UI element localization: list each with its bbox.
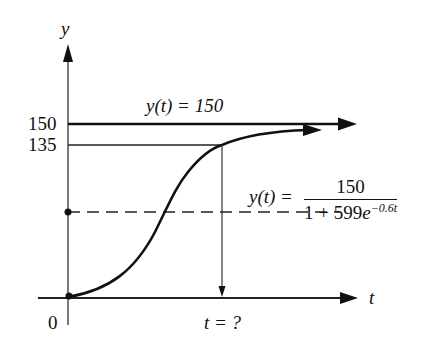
initial-point — [66, 293, 73, 300]
tick-label-150: 150 — [28, 113, 57, 135]
chart-canvas — [0, 0, 442, 348]
asymptote-equation-text: y(t) = 150 — [146, 95, 223, 116]
denominator-exponent: −0.6t — [371, 201, 397, 215]
asymptote-equation: y(t) = 150 — [146, 95, 223, 117]
t-axis-arrow-icon — [340, 292, 358, 304]
curve-equation-denominator: 1 + 599e−0.6t — [304, 200, 397, 224]
asymptote-arrow-icon — [338, 118, 357, 131]
origin-label: 0 — [48, 312, 58, 334]
y-axis-arrow-icon — [63, 44, 73, 62]
denominator-constant: 1 + 599 — [304, 202, 362, 223]
curve-arrow-icon — [303, 124, 322, 136]
curve-equation-lhs: y(t) = — [249, 186, 293, 208]
curve-equation-fraction: 150 1 + 599e−0.6t — [304, 176, 397, 224]
denominator-e: e — [362, 202, 370, 223]
tick-label-135: 135 — [28, 134, 57, 156]
question-label: t = ? — [204, 312, 241, 334]
logistic-curve — [68, 130, 308, 297]
t-axis-label: t — [369, 287, 374, 309]
logistic-growth-figure: y t 0 150 135 y(t) = 150 y(t) = 150 1 + … — [0, 0, 442, 348]
y-axis-label: y — [61, 18, 69, 40]
curve-equation-numerator: 150 — [304, 176, 397, 200]
drop-arrow-icon — [219, 286, 226, 297]
half-capacity-point — [65, 209, 72, 216]
